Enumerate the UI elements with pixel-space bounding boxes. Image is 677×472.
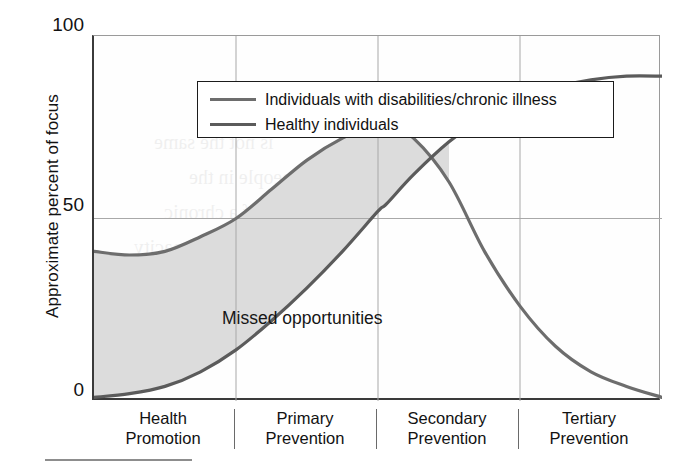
y-tick-100: 100 xyxy=(38,14,84,36)
legend-swatch-icon xyxy=(210,123,256,126)
chart-legend: Individuals with disabilities/chronic il… xyxy=(197,81,614,138)
chart-figure: Approximate percent of focus 100 50 0 is… xyxy=(0,0,677,472)
x-category-secondary-prevention: Secondary Prevention xyxy=(376,405,518,455)
legend-swatch-icon xyxy=(210,98,256,101)
legend-label-disabilities: Individuals with disabilities/chronic il… xyxy=(265,91,557,109)
plot-area: is not the same the people in the risk o… xyxy=(92,35,660,400)
x-category-line2: Prevention xyxy=(518,428,660,448)
y-axis-ticks: 100 50 0 xyxy=(36,0,84,472)
x-category-line1: Tertiary xyxy=(562,409,616,427)
missed-opportunities-label: Missed opportunities xyxy=(222,308,383,329)
y-tick-0: 0 xyxy=(38,379,84,401)
y-tick-50: 50 xyxy=(38,194,84,216)
x-category-health-promotion: Health Promotion xyxy=(92,405,234,455)
x-category-line2: Prevention xyxy=(234,428,376,448)
x-category-line2: Prevention xyxy=(376,428,518,448)
x-category-separator xyxy=(376,409,377,449)
x-category-line1: Secondary xyxy=(408,409,487,427)
x-category-line1: Primary xyxy=(277,409,334,427)
x-category-tertiary-prevention: Tertiary Prevention xyxy=(518,405,660,455)
x-category-primary-prevention: Primary Prevention xyxy=(234,405,376,455)
x-axis-labels: Health Promotion Primary Prevention Seco… xyxy=(92,405,660,455)
shaded-region xyxy=(94,122,449,398)
x-category-line2: Promotion xyxy=(92,428,234,448)
legend-item-healthy: Healthy individuals xyxy=(210,112,613,137)
x-category-separator xyxy=(234,409,235,449)
legend-item-disabilities: Individuals with disabilities/chronic il… xyxy=(210,87,613,112)
x-category-line1: Health xyxy=(139,409,187,427)
page-rule xyxy=(45,459,192,461)
legend-label-healthy: Healthy individuals xyxy=(265,116,398,134)
x-category-separator xyxy=(518,409,519,449)
